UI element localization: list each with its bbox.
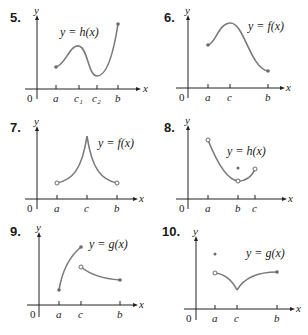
arrow-icon [133,303,138,307]
graph-8: 8. y x 0 a b c y = h(x) [154,110,308,220]
function-curve [81,267,120,280]
origin-label: 0 [30,308,36,320]
arrow-icon [280,86,285,90]
open-point [206,138,210,142]
axis-label: y = f(x) [247,19,284,33]
arrow-icon [290,307,295,311]
axis-label: c [234,312,239,324]
axis-label: y [184,114,190,126]
axis-label: b [117,308,123,320]
axis-label: a [53,92,59,104]
axis-label: y = h(x) [226,144,266,158]
axis-label: a [212,312,218,324]
function-curve [215,273,237,290]
axis-label: c [227,91,232,103]
graph-8-plot: y x 0 a b c y = h(x) [154,110,308,220]
axis-label: x [285,81,291,93]
closed-point [237,167,240,170]
axis-label: a [205,202,211,214]
axis-label: b [274,312,280,324]
open-point [55,181,59,185]
axis-label: c [84,202,89,214]
axis-label: x [138,192,144,204]
axis-label: y = g(x) [245,246,285,260]
closed-point [266,69,270,73]
axis-label: b [115,92,121,104]
axis-label: x [287,192,293,204]
origin-label: 0 [27,202,33,214]
graph-9-plot: y x 0 a c b y = g(x) [0,220,154,335]
axis-label: x [295,302,301,314]
function-curve [237,272,277,290]
axis-label: b [235,202,241,214]
closed-point [118,278,122,282]
function-curve [59,247,81,290]
axis-label: y [35,221,41,233]
closed-point [57,288,61,292]
open-point [253,167,257,171]
graph-6: 6. y x 0 a c b y = f(x) [154,0,308,110]
closed-point [116,22,120,26]
origin-label: 0 [179,202,185,214]
axis-label: y = g(x) [88,237,128,251]
open-point [236,179,240,183]
graph-7: 7. y x 0 a c b y = f(x) [0,110,154,220]
closed-point [275,270,279,274]
graph-5-plot: y x 0 a c₁ c₂ b y = h(x) [0,0,154,110]
arrow-icon [282,197,287,201]
origin-label: 0 [179,91,185,103]
closed-point [79,245,83,249]
graph-6-plot: y x 0 a c b y = f(x) [154,0,308,110]
axis-label: c₁ [74,92,83,104]
axis-label: y [184,4,190,16]
graph-5: 5. y x 0 a c₁ c₂ b y = h(x) [0,0,154,110]
closed-point [214,253,217,256]
closed-point [54,65,58,69]
axis-label: b [265,91,271,103]
axis-label: y [192,225,198,237]
graph-10-plot: y x 0 a c b y = g(x) [154,220,308,335]
open-point [115,181,119,185]
arrow-icon [133,197,138,201]
open-point [79,265,83,269]
axis-label: x [142,82,148,94]
axis-label: y [33,4,39,16]
axis-label: b [114,202,120,214]
axis-label: a [56,308,62,320]
axis-label: c [252,202,257,214]
axis-label: y [33,115,39,127]
axis-label: c [78,308,83,320]
graph-9: 9. y x 0 a c b y = g(x) [0,220,154,330]
closed-point [206,43,210,47]
axis-label: y = f(x) [97,136,134,150]
axis-label: c₂ [92,92,101,104]
x-arrow-icon [136,87,141,91]
axis-label: y = h(x) [59,25,99,39]
graph-10: 10. y x 0 a c b y = g(x) [154,220,308,330]
axis-label: x [138,298,144,310]
origin-label: 0 [27,92,33,104]
graph-7-plot: y x 0 a c b y = f(x) [0,110,154,220]
axis-label: a [205,91,211,103]
open-point [213,271,217,275]
origin-label: 0 [186,312,192,324]
axis-label: a [54,202,60,214]
